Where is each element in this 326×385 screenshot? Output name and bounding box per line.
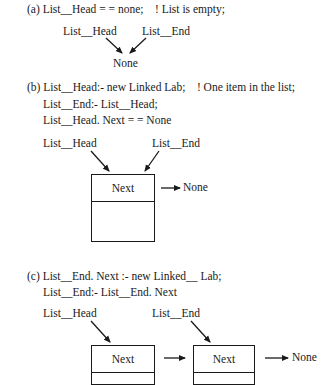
arrow-head-to-node-c1 xyxy=(91,321,110,342)
arrow-end-to-node-c2 xyxy=(191,321,210,342)
arrow-head-to-none-a xyxy=(106,38,122,53)
arrow-end-to-node-b xyxy=(145,151,159,171)
arrow-head-to-node-b xyxy=(91,151,109,171)
arrow-end-to-none-a xyxy=(130,38,146,53)
